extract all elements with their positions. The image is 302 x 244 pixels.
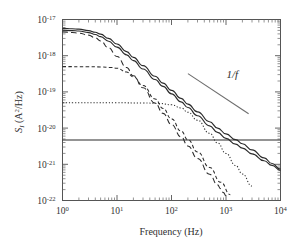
chart-annotations: 1/f bbox=[226, 68, 240, 80]
figure-background bbox=[0, 0, 302, 244]
noise-spectrum-chart: 100101102103104 10-1710-1810-1910-2010-2… bbox=[0, 0, 302, 244]
one-over-f-label: 1/f bbox=[226, 68, 240, 80]
x-axis-title: Frequency (Hz) bbox=[139, 226, 202, 238]
figure-root: 100101102103104 10-1710-1810-1910-2010-2… bbox=[0, 0, 302, 244]
